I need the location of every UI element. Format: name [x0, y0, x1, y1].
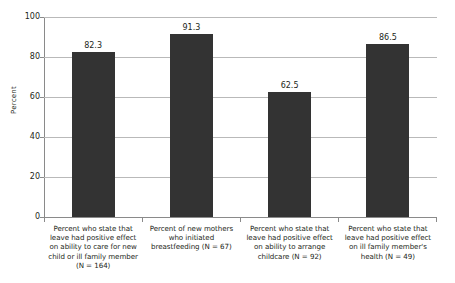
y-tick-label: 0: [22, 213, 40, 221]
category-label: Percent who state that leave had positiv…: [241, 224, 339, 270]
plot-area: 82.3 91.3 62.5 86.5: [44, 17, 437, 217]
x-tick-mark: [142, 217, 143, 222]
y-tick-mark: [40, 97, 44, 98]
y-tick-mark: [40, 137, 44, 138]
category-label: Percent of new mothers who initiated bre…: [142, 224, 240, 270]
y-tick-label: 40: [22, 133, 40, 141]
y-tick-mark: [40, 57, 44, 58]
bar-value-label: 82.3: [58, 41, 128, 50]
y-tick-label: 100: [22, 13, 40, 21]
x-tick-mark: [240, 217, 241, 222]
bar-value-label: 62.5: [255, 81, 325, 90]
category-label: Percent who state that leave had positiv…: [44, 224, 142, 270]
x-tick-mark: [338, 217, 339, 222]
y-axis-tick-labels: 100 80 60 40 20 0: [22, 0, 40, 283]
gridline-100: [44, 17, 437, 18]
bar: [170, 34, 213, 217]
y-tick-mark: [40, 177, 44, 178]
y-tick-mark: [40, 17, 44, 18]
x-tick-mark: [44, 217, 45, 222]
x-axis-category-labels: Percent who state that leave had positiv…: [44, 224, 437, 270]
bar: [72, 52, 115, 217]
bar-value-label: 86.5: [353, 33, 423, 42]
x-tick-mark: [436, 217, 437, 222]
bar: [268, 92, 311, 217]
y-tick-label: 20: [22, 173, 40, 181]
bar: [366, 44, 409, 217]
category-label: Percent who state that leave had positiv…: [339, 224, 437, 270]
y-axis-title: Percent: [10, 70, 18, 130]
y-axis-line: [44, 17, 45, 217]
y-tick-label: 80: [22, 53, 40, 61]
bar-value-label: 91.3: [156, 23, 226, 32]
bar-chart: Percent 100 80 60 40 20 0 82.3: [0, 0, 455, 283]
y-tick-label: 60: [22, 93, 40, 101]
